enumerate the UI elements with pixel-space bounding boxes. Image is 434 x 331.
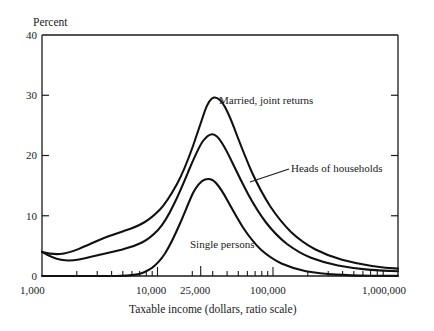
- series-label-heads-of-households: Heads of households: [291, 163, 383, 174]
- y-axis-ticks-right: [391, 95, 398, 276]
- x-tick-label-1000: 1,000: [20, 285, 45, 296]
- series-line-heads: [42, 134, 398, 271]
- y-axis-title: Percent: [33, 17, 67, 29]
- y-tick-label-20: 20: [18, 150, 37, 161]
- y-tick-label-40: 40: [18, 30, 37, 41]
- series-label-married: Married, joint returns: [219, 95, 313, 106]
- x-tick-label-10000: 10,000: [136, 285, 166, 296]
- y-tick-label-30: 30: [18, 90, 37, 101]
- chart-figure: Percent 40 30 20 10 0 1,000 10,000 25,00…: [0, 0, 434, 331]
- x-tick-label-25000: 25,000: [180, 285, 210, 296]
- y-tick-label-0: 0: [18, 271, 37, 282]
- y-axis-ticks: [42, 95, 49, 276]
- series-label-single-persons: Single persons: [190, 239, 254, 250]
- heads-of-households-leader-line: [250, 169, 289, 182]
- x-tick-label-1000000: 1,000,000: [362, 285, 406, 296]
- x-axis-title: Taxable income (dollars, ratio scale): [129, 304, 296, 316]
- y-tick-label-10: 10: [18, 211, 37, 222]
- x-tick-label-100000: 100,000: [250, 285, 286, 296]
